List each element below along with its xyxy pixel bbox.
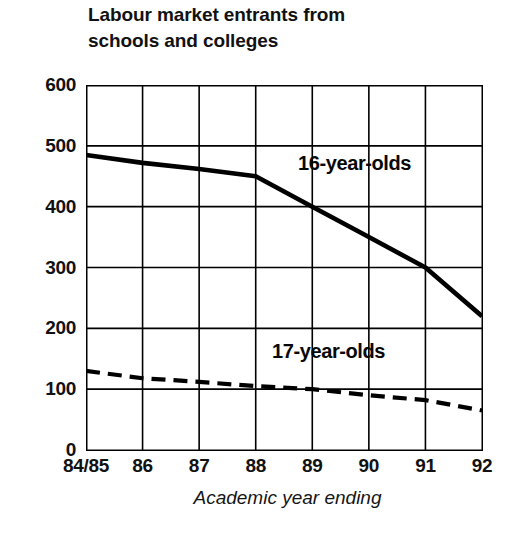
series-label-16-year-olds: 16-year-olds: [298, 152, 411, 175]
y-tick-label: 600: [6, 74, 76, 96]
data-series-lines: [86, 155, 482, 411]
data-line-16-year-olds: [86, 155, 482, 316]
x-axis-title: Academic year ending: [0, 487, 529, 509]
x-tick-label: 88: [245, 455, 266, 477]
y-tick-label: 400: [6, 196, 76, 218]
x-tick-label: 90: [359, 455, 380, 477]
data-line-17-year-olds: [86, 371, 482, 411]
y-tick-label: 300: [6, 257, 76, 279]
x-tick-label: 84/85: [63, 455, 109, 477]
x-tick-label: 91: [415, 455, 436, 477]
y-axis-tick-labels: 0100200300400500600: [0, 85, 76, 451]
chart-title-line-2: schools and colleges: [88, 28, 488, 54]
x-axis-tick-labels: 84/8586878889909192: [0, 455, 529, 485]
y-tick-label: 500: [6, 135, 76, 157]
chart-svg: [86, 85, 483, 451]
x-tick-label: 89: [302, 455, 323, 477]
x-tick-label: 92: [472, 455, 493, 477]
series-label-17-year-olds: 17-year-olds: [272, 340, 385, 363]
x-tick-label: 87: [189, 455, 210, 477]
source-note: [0, 519, 529, 534]
page-title: Labour market entrants from schools and …: [88, 2, 488, 53]
chart-plot-area: [86, 85, 483, 451]
y-tick-label: 200: [6, 317, 76, 339]
chart-title-line-1: Labour market entrants from: [88, 2, 488, 28]
x-tick-label: 86: [132, 455, 153, 477]
y-tick-label: 100: [6, 378, 76, 400]
